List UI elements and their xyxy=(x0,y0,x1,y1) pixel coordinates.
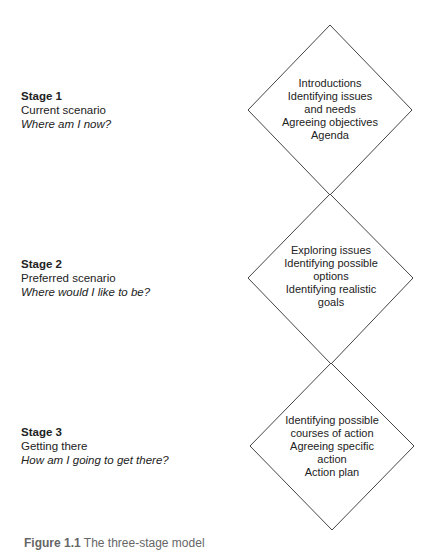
activity: Action plan xyxy=(257,466,407,479)
figure-caption: Figure 1.1 The three-stage model xyxy=(24,536,205,550)
stage-3-activities: Identifying possible courses of action A… xyxy=(257,414,407,479)
activity: options xyxy=(256,270,406,283)
stage-title: Stage 3 xyxy=(21,425,169,439)
stage-title: Stage 1 xyxy=(21,89,111,103)
stage-1-label: Stage 1 Current scenario Where am I now? xyxy=(21,89,111,131)
activity: action xyxy=(257,453,407,466)
stage-question: Where would I like to be? xyxy=(21,285,150,299)
stage-1-activities: Introductions Identifying issues and nee… xyxy=(255,77,405,142)
activity: Agenda xyxy=(255,129,405,142)
stage-name: Getting there xyxy=(21,439,169,453)
stage-title: Stage 2 xyxy=(21,257,150,271)
activity: Introductions xyxy=(255,77,405,90)
activity: Identifying possible xyxy=(257,414,407,427)
activity: courses of action xyxy=(257,427,407,440)
activity: Agreeing specific xyxy=(257,440,407,453)
stage-question: How am I going to get there? xyxy=(21,453,169,467)
activity: Agreeing objectives xyxy=(255,116,405,129)
stage-3-label: Stage 3 Getting there How am I going to … xyxy=(21,425,169,467)
activity: and needs xyxy=(255,103,405,116)
activity: Exploring issues xyxy=(256,244,406,257)
activity: goals xyxy=(256,296,406,309)
stage-name: Preferred scenario xyxy=(21,271,150,285)
activity: Identifying possible xyxy=(256,257,406,270)
stage-2-activities: Exploring issues Identifying possible op… xyxy=(256,244,406,309)
stage-question: Where am I now? xyxy=(21,117,111,131)
activity: Identifying issues xyxy=(255,90,405,103)
caption-label: Figure 1.1 xyxy=(24,536,81,550)
stage-name: Current scenario xyxy=(21,103,111,117)
activity: Identifying realistic xyxy=(256,283,406,296)
stage-2-label: Stage 2 Preferred scenario Where would I… xyxy=(21,257,150,299)
caption-text: The three-stage model xyxy=(84,536,205,550)
